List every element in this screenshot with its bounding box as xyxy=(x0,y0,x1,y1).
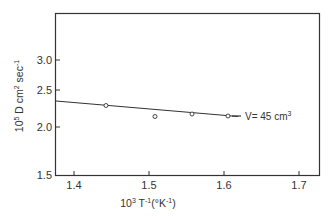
series-annotation: V= 45 cm3 xyxy=(245,110,292,122)
y-tick-label: 2.0 xyxy=(37,121,52,133)
y-tick-label: 3.0 xyxy=(37,54,52,66)
x-tick-label: 1.7 xyxy=(291,179,306,191)
plot-frame xyxy=(56,14,320,176)
data-point xyxy=(104,104,108,108)
x-axis-label: 103 T-1(°K-1) xyxy=(120,197,175,209)
x-tick-label: 1.4 xyxy=(66,179,81,191)
data-point xyxy=(153,115,157,119)
x-tick-label: 1.6 xyxy=(216,179,231,191)
data-point xyxy=(190,112,194,116)
data-point xyxy=(226,114,230,118)
y-tick-label: 2.5 xyxy=(37,84,52,96)
chart: 1.4 1.5 1.6 1.7 1.5 2.0 2.5 3.0 V= 45 cm… xyxy=(0,0,329,216)
x-tick-label: 1.5 xyxy=(141,179,156,191)
y-tick-label: 1.5 xyxy=(37,169,52,181)
fit-line xyxy=(56,101,238,117)
x-axis xyxy=(74,171,299,175)
y-axis-label: 105 D cm2 sec-1 xyxy=(13,60,25,133)
